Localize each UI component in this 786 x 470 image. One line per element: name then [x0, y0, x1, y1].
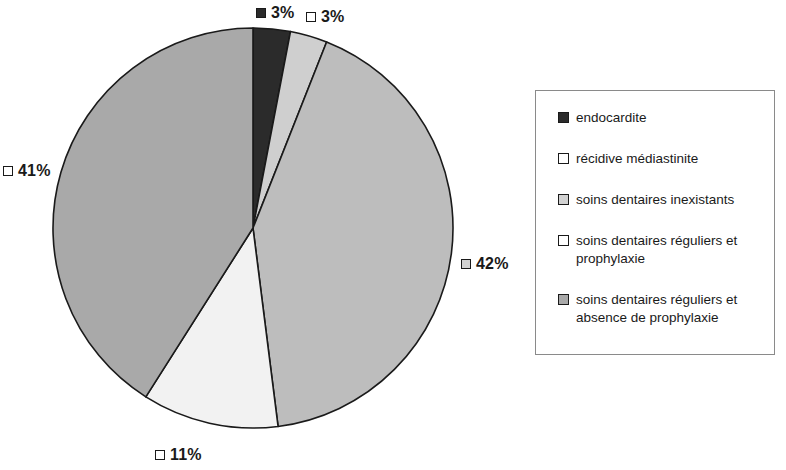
slice-marker-soins-reguliers-prophylaxie	[155, 450, 165, 460]
slice-marker-soins-inexistants	[461, 259, 471, 269]
legend-label: récidive médiastinite	[576, 150, 698, 168]
legend-swatch-recidive-mediastinite	[558, 153, 569, 164]
pie-chart-graphic	[0, 0, 530, 470]
legend-swatch-soins-dentaires-reguliers-et-absence-de-prophyla	[558, 294, 569, 305]
legend-label: soins dentaires réguliers et absence de …	[576, 291, 766, 327]
legend-label: soins dentaires réguliers et prophylaxie	[576, 232, 766, 268]
legend-item-soins-dentaires-inexistants: soins dentaires inexistants	[558, 191, 766, 209]
slice-value-soins-inexistants: 42%	[476, 256, 509, 272]
legend-item-recidive-mediastinite: récidive médiastinite	[558, 150, 766, 168]
slice-label-recidive-mediastinite: 3%	[306, 9, 345, 25]
pie-chart-figure: 3% 3% 42% 11% 41%	[0, 0, 530, 470]
legend-item-soins-dentaires-reguliers-et-prophylaxie: soins dentaires réguliers et prophylaxie	[558, 232, 766, 268]
slice-marker-endocardite	[256, 8, 266, 18]
pie-slice-group	[53, 28, 453, 428]
legend-item-list: endocarditerécidive médiastinitesoins de…	[558, 109, 766, 327]
slice-value-soins-reguliers-absence-prophylaxie: 41%	[18, 163, 51, 179]
legend-label: endocardite	[576, 109, 647, 127]
slice-value-recidive-mediastinite: 3%	[321, 9, 345, 25]
legend-label: soins dentaires inexistants	[576, 191, 734, 209]
slice-value-endocardite: 3%	[271, 5, 295, 21]
slice-marker-recidive-mediastinite	[306, 12, 316, 22]
slice-value-soins-reguliers-prophylaxie: 11%	[170, 447, 202, 463]
legend-swatch-soins-dentaires-inexistants	[558, 194, 569, 205]
slice-label-soins-inexistants: 42%	[461, 256, 509, 272]
legend-swatch-endocardite	[558, 112, 569, 123]
legend-item-endocardite: endocardite	[558, 109, 766, 127]
slice-label-soins-reguliers-absence-prophylaxie: 41%	[3, 163, 51, 179]
slice-label-soins-reguliers-prophylaxie: 11%	[155, 447, 202, 463]
chart-legend: endocarditerécidive médiastinitesoins de…	[535, 90, 775, 355]
legend-swatch-soins-dentaires-reguliers-et-prophylaxie	[558, 235, 569, 246]
legend-item-soins-dentaires-reguliers-et-absence-de-prophyla: soins dentaires réguliers et absence de …	[558, 291, 766, 327]
slice-marker-soins-reguliers-absence-prophylaxie	[3, 166, 13, 176]
slice-label-endocardite: 3%	[256, 5, 295, 21]
